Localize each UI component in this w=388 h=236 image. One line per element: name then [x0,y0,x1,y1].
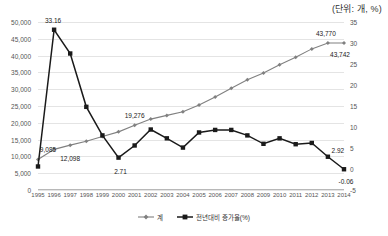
x-axis-tick: 2005 [192,192,205,198]
count-2013-label: 43,770 [316,29,336,36]
y-axis-left-tick: 45,000 [11,35,31,42]
x-axis-tick: 1998 [80,192,93,198]
square-marker-icon [84,105,88,109]
diamond-marker-icon [245,78,249,82]
square-marker-icon [177,213,193,221]
square-marker-icon [165,136,169,140]
diamond-marker-icon [294,55,298,59]
growth-2013-label: 2.92 [332,146,345,153]
count-1995-label: 9,085 [40,146,56,153]
square-marker-icon [229,128,233,132]
count-2001-label: 19,276 [125,112,145,119]
x-axis-tick: 1997 [64,192,77,198]
diamond-marker-icon [165,113,169,117]
growth-2014-label: -0.06 [339,178,354,185]
diamond-marker-icon [278,63,282,67]
series-layer [38,22,344,190]
y-axis-right-tick: 30 [350,40,357,47]
plot-area: 33.169,08512,0982.7119,27643,77043,7422.… [38,22,344,190]
y-axis-left-tick: 10,000 [11,153,31,160]
y-axis-right-tick: -5 [350,187,356,194]
y-axis-left-tick: 40,000 [11,52,31,59]
x-axis-ticks: 1995199619971998199920002001200220032004… [38,192,344,204]
x-axis-tick: 1995 [31,192,44,198]
x-axis-tick: 2008 [241,192,254,198]
y-axis-left-tick: 50,000 [11,19,31,26]
diamond-marker-icon [138,213,154,221]
x-axis-tick: 2004 [176,192,189,198]
y-axis-right: -505101520253035 [346,22,386,190]
square-marker-icon [197,130,201,134]
diamond-marker-icon [149,117,153,121]
square-marker-icon [100,133,104,137]
growth-2000-label: 2.71 [114,167,127,174]
y-axis-right-tick: 15 [350,103,357,110]
diamond-marker-icon [197,103,201,107]
square-marker-icon [132,143,136,147]
count-1996-label: 12,098 [60,155,80,162]
square-marker-icon [149,127,153,131]
chart-legend: 계전년대비 증가율(%) [0,212,388,222]
legend-label: 전년대비 증가율(%) [196,212,250,222]
x-axis-tick: 2009 [257,192,270,198]
square-marker-icon [36,164,40,168]
diamond-marker-icon [68,143,72,147]
diamond-marker-icon [229,86,233,90]
x-axis-tick: 2014 [337,192,350,198]
square-marker-icon [277,136,281,140]
legend-item[interactable]: 계 [138,212,163,222]
gridline [38,190,344,191]
square-marker-icon [116,155,120,159]
x-axis-tick: 2002 [144,192,157,198]
y-axis-left-tick: 15,000 [11,136,31,143]
square-marker-icon [245,133,249,137]
square-marker-icon [181,145,185,149]
y-axis-right-tick: 25 [350,61,357,68]
square-marker-icon [52,28,56,32]
y-axis-right-tick: 5 [350,145,354,152]
diamond-marker-icon [144,215,149,220]
y-axis-left: 05,00010,00015,00020,00025,00030,00035,0… [0,22,34,190]
unit-note: (단위: 개, %) [332,2,382,15]
y-axis-right-tick: 10 [350,124,357,131]
square-marker-icon [342,167,346,171]
square-marker-icon [293,142,297,146]
diamond-marker-icon [326,41,330,45]
peak-growth-label: 33.16 [45,16,61,23]
legend-item[interactable]: 전년대비 증가율(%) [177,212,250,222]
square-marker-icon [261,142,265,146]
y-axis-left-tick: 20,000 [11,119,31,126]
y-axis-left-tick: 5,000 [15,170,31,177]
chart-container: (단위: 개, %) 05,00010,00015,00020,00025,00… [0,0,388,236]
square-marker-icon [183,215,188,220]
series-line-growth [38,30,344,170]
square-marker-icon [68,51,72,55]
x-axis-tick: 2013 [321,192,334,198]
x-axis-tick: 1996 [47,192,60,198]
x-axis-tick: 2007 [225,192,238,198]
count-2014-label: 43,742 [330,51,350,58]
square-marker-icon [326,155,330,159]
x-axis-tick: 2001 [128,192,141,198]
square-marker-icon [213,128,217,132]
y-axis-left-tick: 35,000 [11,69,31,76]
diamond-marker-icon [213,95,217,99]
y-axis-left-tick: 25,000 [11,103,31,110]
x-axis-tick: 2012 [305,192,318,198]
y-axis-right-tick: 20 [350,82,357,89]
diamond-marker-icon [133,123,137,127]
x-axis-tick: 2010 [273,192,286,198]
x-axis-tick: 1999 [96,192,109,198]
diamond-marker-icon [84,139,88,143]
x-axis-tick: 2006 [208,192,221,198]
diamond-marker-icon [310,47,314,51]
x-axis-tick: 2000 [112,192,125,198]
y-axis-right-tick: 35 [350,19,357,26]
square-marker-icon [310,141,314,145]
legend-label: 계 [157,212,163,222]
y-axis-right-tick: 0 [350,166,354,173]
diamond-marker-icon [181,110,185,114]
x-axis-tick: 2011 [289,192,302,198]
diamond-marker-icon [117,130,121,134]
diamond-marker-icon [261,71,265,75]
